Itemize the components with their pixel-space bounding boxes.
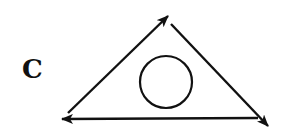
arrow-top-to-right <box>171 24 268 126</box>
inner-circle <box>140 56 192 108</box>
cycle-triangle-diagram <box>0 0 282 132</box>
arrow-left-to-top <box>68 16 168 113</box>
arrow-right-to-left <box>62 118 258 119</box>
